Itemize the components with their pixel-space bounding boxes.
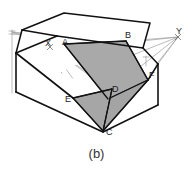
vanishing-point-label-y: Y bbox=[176, 27, 182, 36]
vertex-label-a: A bbox=[62, 38, 68, 47]
figure-container: A B C D E F X Y (b) bbox=[0, 0, 193, 171]
vertex-label-f: F bbox=[149, 71, 155, 80]
vanishing-point-label-x: X bbox=[45, 39, 51, 48]
edge-lower-right-top bbox=[143, 48, 158, 64]
vertex-label-e: E bbox=[65, 95, 71, 104]
vertex-label-d: D bbox=[112, 85, 119, 94]
figure-caption: (b) bbox=[0, 146, 193, 161]
vertex-label-c: C bbox=[106, 128, 113, 137]
vertex-label-b: B bbox=[125, 31, 131, 40]
